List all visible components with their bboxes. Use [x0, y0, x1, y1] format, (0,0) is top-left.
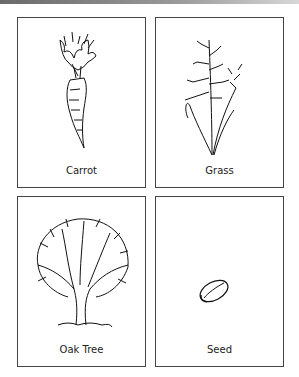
- card-label: Grass: [156, 165, 283, 176]
- card-label: Carrot: [18, 165, 145, 176]
- card-seed: Seed: [155, 196, 284, 367]
- top-rule: [0, 0, 299, 4]
- card-carrot: Carrot: [17, 17, 146, 188]
- grass-icon: [156, 18, 285, 158]
- seed-icon: [156, 197, 285, 337]
- card-label: Seed: [156, 344, 283, 355]
- carrot-icon: [18, 18, 147, 158]
- card-oak-tree: Oak Tree: [17, 196, 146, 367]
- card-grass: Grass: [155, 17, 284, 188]
- card-label: Oak Tree: [18, 344, 145, 355]
- oak-tree-icon: [18, 197, 147, 337]
